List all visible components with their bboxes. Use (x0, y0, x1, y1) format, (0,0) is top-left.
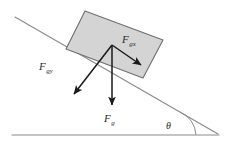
angle-label-theta: θ (166, 120, 171, 131)
vector-fgy-label-base: F (38, 60, 46, 72)
vector-fg-label-base: F (103, 112, 111, 124)
inclined-plane-force-diagram: θ Fgx Fgy Fg (0, 0, 235, 147)
vector-fgx-label-subscript: gx (129, 40, 137, 48)
block-shape (66, 11, 163, 78)
vector-fgx-label-base: F (121, 33, 129, 45)
vector-fg-label-subscript: g (111, 119, 115, 127)
angle-arc (180, 112, 196, 135)
vector-fgy-label: Fgy (38, 60, 54, 75)
vector-fg-label: Fg (103, 112, 115, 127)
vector-fgy-label-subscript: gy (46, 67, 54, 75)
